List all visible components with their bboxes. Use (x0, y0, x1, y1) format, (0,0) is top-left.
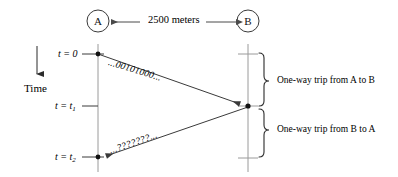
figure-canvas: A B 2500 meters (0, 0, 398, 177)
brace-a-to-b (259, 53, 269, 106)
node-b: B (237, 10, 259, 32)
node-a-label: A (94, 15, 102, 27)
tick-label-t2: t = t2 (55, 152, 76, 164)
event-dot-b-receive (245, 103, 250, 108)
tick-label-t0-symbol: t (58, 48, 61, 59)
tick-label-t1-equals: = (60, 100, 67, 111)
tick-label-t1-symbol: t (55, 100, 58, 111)
tick-label-t1-sub: 1 (72, 105, 76, 113)
brace-label-a-to-b: One-way trip from A to B (277, 76, 375, 86)
node-a: A (87, 10, 109, 32)
tick-label-t2-equals: = (60, 151, 67, 162)
tick-label-t2-symbol: t (55, 151, 58, 162)
tick-label-t1: t = t1 (55, 101, 76, 113)
tick-label-t0-equals: = (63, 48, 70, 59)
brace-b-to-a (259, 109, 269, 157)
tick-label-t0: t = 0 (58, 49, 78, 59)
tick-label-t2-sub: 2 (72, 156, 76, 164)
time-axis-label: Time (24, 83, 47, 94)
tick-label-t0-value: 0 (73, 48, 78, 59)
brace-label-b-to-a: One-way trip from B to A (277, 125, 375, 135)
distance-label: 2500 meters (148, 15, 200, 26)
event-dot-a-receive (96, 155, 101, 160)
node-b-label: B (244, 15, 251, 27)
event-dot-a-send (96, 52, 101, 57)
